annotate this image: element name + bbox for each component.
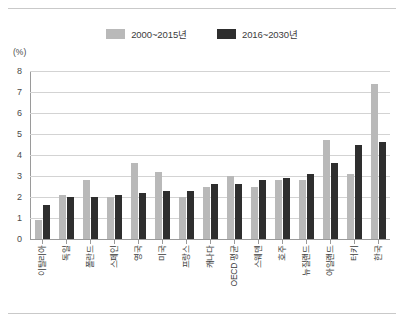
frame-top-border (8, 8, 396, 9)
x-label-slot: 아일랜드 (318, 245, 342, 309)
x-label-slot: 이탈리아 (30, 245, 54, 309)
tick-slot (126, 240, 150, 244)
x-axis-label: 영국 (134, 245, 143, 261)
bar (347, 174, 354, 239)
bar-groups (30, 71, 390, 239)
x-label-slot: 폴란드 (78, 245, 102, 309)
chart-figure: 2000~2015년 2016~2030년 (%) 012345678 이탈리아… (0, 0, 404, 322)
x-axis-label: 폴란드 (86, 245, 95, 268)
bar (211, 184, 218, 239)
x-label-slot: 독일 (54, 245, 78, 309)
bar (275, 180, 282, 239)
legend-label-2016-2030: 2016~2030년 (242, 27, 298, 41)
chart-legend: 2000~2015년 2016~2030년 (0, 27, 404, 41)
y-axis-unit-label: (%) (13, 47, 26, 57)
x-label-slot: 뉴질랜드 (294, 245, 318, 309)
y-tick-label-8: 8 (17, 66, 22, 76)
x-label-slot: 스페인 (102, 245, 126, 309)
x-axis-tick-marks (30, 240, 390, 244)
x-label-slot: OECD 평균 (222, 245, 246, 309)
x-label-slot: 터키 (342, 245, 366, 309)
bar-group (270, 71, 294, 239)
tick-slot (342, 240, 366, 244)
bar (307, 174, 314, 239)
tick-slot (366, 240, 390, 244)
legend-label-2000-2015: 2000~2015년 (131, 27, 187, 41)
x-axis-label: 호주 (278, 245, 287, 261)
bar (187, 191, 194, 239)
x-axis-label: 뉴질랜드 (302, 245, 311, 276)
tick-slot (174, 240, 198, 244)
x-axis-label: 캐나다 (206, 245, 215, 268)
tick-slot (318, 240, 342, 244)
bar (259, 180, 266, 239)
tick-mark (330, 240, 331, 244)
tick-mark (186, 240, 187, 244)
bar (283, 178, 290, 239)
tick-slot (30, 240, 54, 244)
x-label-slot: 캐나다 (198, 245, 222, 309)
bar (179, 197, 186, 239)
tick-mark (210, 240, 211, 244)
bar-group (174, 71, 198, 239)
bar (323, 140, 330, 239)
tick-mark (306, 240, 307, 244)
bar (107, 197, 114, 239)
x-label-slot: 호주 (270, 245, 294, 309)
x-axis-label: OECD 평균 (230, 245, 239, 287)
bar-group (198, 71, 222, 239)
x-label-slot: 미국 (150, 245, 174, 309)
x-label-slot: 프랑스 (174, 245, 198, 309)
bar-group (294, 71, 318, 239)
bar (43, 205, 50, 239)
bar (163, 191, 170, 239)
x-axis-category-labels: 이탈리아독일폴란드스페인영국미국프랑스캐나다OECD 평균스웨덴호주뉴질랜드아일… (30, 245, 390, 309)
x-axis-label: 터키 (350, 245, 359, 261)
tick-mark (114, 240, 115, 244)
tick-slot (150, 240, 174, 244)
bar (59, 195, 66, 239)
tick-mark (42, 240, 43, 244)
bar-group (246, 71, 270, 239)
bar (371, 84, 378, 239)
bar-group (78, 71, 102, 239)
bar (91, 197, 98, 239)
tick-mark (162, 240, 163, 244)
bar (235, 184, 242, 239)
bar (115, 195, 122, 239)
bar (35, 220, 42, 239)
y-tick-label-0: 0 (17, 234, 22, 244)
x-axis-label: 아일랜드 (326, 245, 335, 276)
tick-slot (78, 240, 102, 244)
tick-slot (102, 240, 126, 244)
y-tick-label-6: 6 (17, 108, 22, 118)
bar-group (366, 71, 390, 239)
bar (203, 187, 210, 240)
x-axis-label: 독일 (62, 245, 71, 261)
bar-group (342, 71, 366, 239)
bar (355, 145, 362, 240)
bar (379, 142, 386, 239)
legend-swatch-2016-2030 (217, 29, 236, 39)
x-label-slot: 스웨덴 (246, 245, 270, 309)
tick-slot (246, 240, 270, 244)
legend-entry-2000-2015: 2000~2015년 (106, 27, 187, 41)
bar-group (30, 71, 54, 239)
y-tick-label-5: 5 (17, 129, 22, 139)
bar-group (318, 71, 342, 239)
tick-mark (258, 240, 259, 244)
frame-bottom-border (8, 313, 396, 314)
bar (227, 176, 234, 239)
bar (83, 180, 90, 239)
bar-group (222, 71, 246, 239)
tick-mark (378, 240, 379, 244)
tick-slot (270, 240, 294, 244)
bar-group (102, 71, 126, 239)
bar (67, 197, 74, 239)
y-tick-label-2: 2 (17, 192, 22, 202)
bar-group (126, 71, 150, 239)
plot-area (30, 71, 390, 239)
bar (131, 163, 138, 239)
x-axis-label: 스페인 (110, 245, 119, 268)
x-axis-label: 스웨덴 (254, 245, 263, 268)
